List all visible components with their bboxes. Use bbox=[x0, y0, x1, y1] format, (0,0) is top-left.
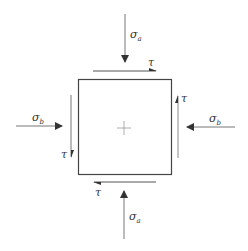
center-cross-icon bbox=[117, 121, 131, 135]
stress-element-square bbox=[79, 80, 172, 175]
sigma-a-top-label: σa bbox=[130, 28, 142, 43]
sigma-b-left-label: σb bbox=[32, 111, 45, 126]
sigma-b-right-label: σb bbox=[209, 112, 222, 127]
tau-top-label: τ bbox=[148, 56, 155, 69]
tau-bottom-label: τ bbox=[95, 186, 102, 199]
tau-left-label: τ bbox=[61, 148, 68, 161]
stress-element-diagram: σa τ σb τ σb τ τ σa bbox=[0, 0, 248, 251]
tau-right-label: τ bbox=[181, 92, 188, 105]
sigma-a-bottom-label: σa bbox=[129, 210, 141, 225]
